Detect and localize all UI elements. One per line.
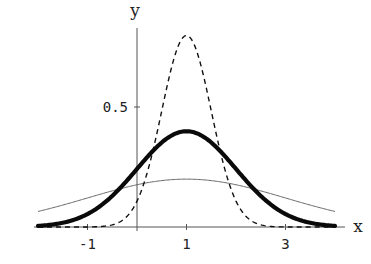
- labels: -1130.5xy: [79, 0, 363, 252]
- curve-thick: [38, 131, 335, 226]
- curves: [38, 36, 335, 227]
- x-axis-label: x: [353, 216, 363, 236]
- curve-thin: [38, 179, 335, 211]
- x-tick-label: 3: [281, 236, 289, 252]
- x-tick-label: 1: [182, 236, 190, 252]
- chart: -1130.5xy: [0, 0, 371, 264]
- y-tick-label: 0.5: [103, 99, 128, 115]
- x-tick-label: -1: [79, 236, 96, 252]
- y-axis-label: y: [129, 0, 140, 20]
